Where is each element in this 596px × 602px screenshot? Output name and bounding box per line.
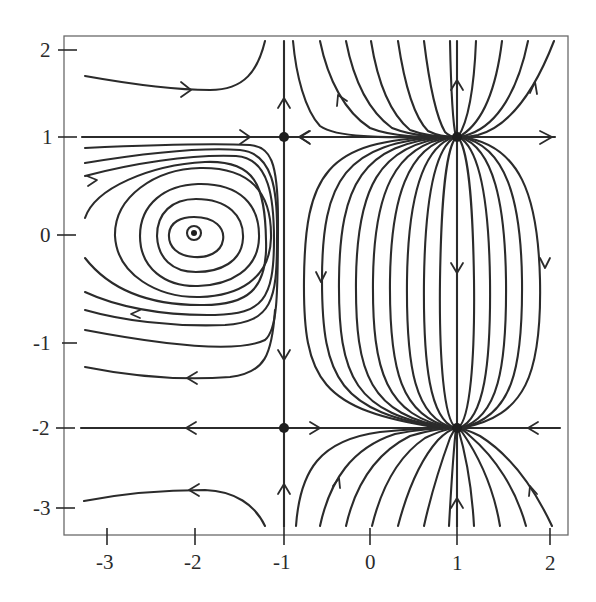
trajectory-top-left	[85, 41, 265, 90]
y-axis: 2 1 0 -1 -2 -3	[32, 38, 77, 520]
equilibrium-saddle	[279, 132, 289, 142]
y-tick-label: -1	[33, 331, 51, 355]
y-tick-label: 2	[40, 38, 51, 62]
trajectory	[440, 137, 456, 428]
orbit	[169, 217, 223, 257]
lower-fan	[296, 428, 552, 526]
x-tick-label: 0	[365, 550, 376, 574]
phase-portrait: 2 1 0 -1 -2 -3 -3 -2 -1 0 1 2	[0, 0, 596, 602]
trajectory	[457, 428, 526, 526]
trajectory	[398, 41, 456, 137]
trajectory	[458, 41, 476, 137]
x-tick-label: 1	[452, 551, 463, 575]
trajectory	[322, 137, 445, 428]
x-tick-label: 2	[545, 551, 556, 575]
trajectory	[458, 428, 474, 526]
upper-fan	[293, 41, 554, 137]
trajectory	[371, 41, 455, 137]
equilibrium-saddle	[279, 423, 289, 433]
y-tick-label: -3	[33, 496, 51, 520]
orbit	[85, 149, 277, 325]
trajectory	[346, 428, 456, 526]
y-tick-label: 1	[42, 125, 53, 149]
middle-band	[304, 137, 540, 428]
trajectory	[320, 41, 455, 137]
equilibrium-unstable-node	[452, 132, 462, 142]
trajectory-bottom-left	[84, 490, 265, 526]
x-tick-label: -1	[273, 550, 291, 574]
y-tick-label: -2	[32, 416, 50, 440]
trajectory	[449, 428, 456, 526]
x-tick-label: -2	[184, 550, 202, 574]
arrow-right-icon	[87, 176, 97, 186]
y-tick-label: 0	[40, 223, 51, 247]
arrow-down-icon	[540, 258, 550, 268]
equilibrium-center	[191, 230, 197, 236]
trajectory	[458, 137, 474, 428]
center-orbits	[85, 144, 278, 378]
arrow-left-icon	[131, 310, 140, 318]
equilibrium-stable-node	[452, 423, 462, 433]
x-tick-label: -3	[96, 550, 114, 574]
orbit	[85, 156, 274, 315]
